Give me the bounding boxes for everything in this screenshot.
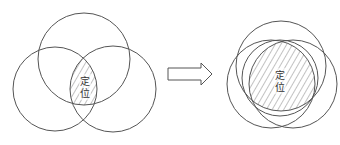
left-label-line1: 定 <box>80 75 90 87</box>
hollow-arrow-icon <box>168 63 212 85</box>
venn-diagram-canvas: 定 位 定 位 <box>0 0 340 145</box>
right-label-line1: 定 <box>275 69 285 81</box>
left-label-line2: 位 <box>80 87 90 99</box>
left-venn-group: 定 位 <box>13 13 156 132</box>
right-venn-group: 定 位 <box>227 21 337 128</box>
right-label-line2: 位 <box>275 81 285 93</box>
